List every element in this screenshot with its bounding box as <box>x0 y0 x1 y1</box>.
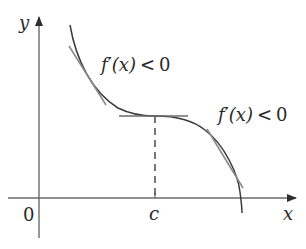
left-derivative-annotation: f′(x)<0 <box>99 54 171 75</box>
right-tangent-line <box>207 129 243 188</box>
y-axis-label: y <box>18 12 30 33</box>
right-derivative-annotation: f′(x)<0 <box>216 104 288 125</box>
function-graph-diagram: y x 0 c f′(x)<0 f′(x)<0 <box>0 0 306 249</box>
c-label: c <box>149 203 159 224</box>
origin-label: 0 <box>23 204 34 225</box>
function-curve <box>70 25 242 213</box>
x-axis-label: x <box>283 203 293 224</box>
